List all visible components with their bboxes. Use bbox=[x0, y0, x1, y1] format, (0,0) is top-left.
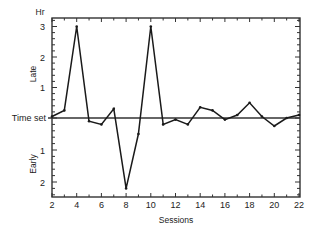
y-unit-label: Hr bbox=[36, 7, 45, 17]
x-tick-label: 6 bbox=[99, 200, 104, 210]
chart-container: 246810121416182022321Time set12HrSession… bbox=[0, 0, 314, 237]
data-point bbox=[224, 118, 227, 121]
early-label: Early bbox=[28, 154, 38, 174]
x-tick-label: 8 bbox=[124, 200, 129, 210]
line-chart: 246810121416182022321Time set12HrSession… bbox=[0, 0, 314, 237]
data-point bbox=[211, 109, 214, 112]
data-point bbox=[75, 25, 78, 28]
data-series bbox=[51, 25, 301, 190]
axis-ticks bbox=[52, 18, 300, 197]
y-tick-label: 2 bbox=[40, 178, 45, 188]
data-point bbox=[174, 118, 177, 121]
data-point bbox=[285, 117, 288, 120]
plot-frame bbox=[52, 18, 300, 197]
data-point bbox=[63, 109, 66, 112]
data-point bbox=[51, 115, 54, 118]
late-label: Late bbox=[28, 65, 38, 82]
data-point bbox=[199, 106, 202, 109]
data-point bbox=[187, 123, 190, 126]
x-tick-label: 18 bbox=[245, 200, 255, 210]
data-point bbox=[125, 187, 128, 190]
axis-labels: 246810121416182022321Time set12HrSession… bbox=[12, 7, 304, 225]
plot-border bbox=[52, 18, 300, 197]
data-point bbox=[112, 108, 115, 111]
x-tick-label: 4 bbox=[74, 200, 79, 210]
data-point bbox=[236, 114, 239, 117]
y-tick-label: 1 bbox=[40, 146, 45, 156]
data-point bbox=[100, 123, 103, 126]
x-axis-title: Sessions bbox=[159, 215, 194, 225]
x-tick-label: 12 bbox=[170, 200, 180, 210]
x-tick-label: 22 bbox=[294, 200, 304, 210]
x-tick-label: 14 bbox=[195, 200, 205, 210]
data-point bbox=[162, 123, 165, 126]
y-tick-label: 2 bbox=[40, 53, 45, 63]
data-point bbox=[298, 114, 301, 117]
data-point bbox=[150, 25, 153, 28]
y-tick-label: 1 bbox=[40, 83, 45, 93]
x-tick-label: 16 bbox=[220, 200, 230, 210]
x-tick-label: 20 bbox=[269, 200, 279, 210]
time-set-label: Time set bbox=[12, 113, 47, 123]
data-point bbox=[88, 120, 91, 123]
x-tick-label: 2 bbox=[49, 200, 54, 210]
y-tick-label: 3 bbox=[40, 22, 45, 32]
data-point bbox=[261, 115, 264, 118]
series-line bbox=[52, 27, 299, 189]
data-point bbox=[137, 133, 140, 136]
x-tick-label: 10 bbox=[146, 200, 156, 210]
data-point bbox=[273, 125, 276, 128]
data-point bbox=[248, 101, 251, 104]
